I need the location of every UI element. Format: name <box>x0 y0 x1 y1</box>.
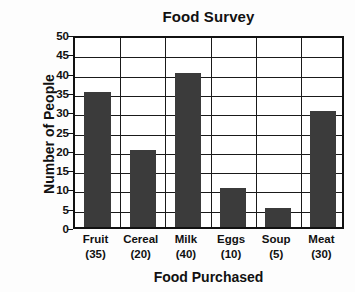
category-value: (20) <box>118 247 163 262</box>
chart-title: Food Survey <box>73 8 344 26</box>
category-name: Soup <box>254 232 299 247</box>
x-axis-tick-label-fruit: Fruit(35) <box>73 232 118 262</box>
category-value: (35) <box>73 247 118 262</box>
y-axis-tick-label: 20 <box>47 147 69 158</box>
y-axis-tick-label: 45 <box>47 50 69 61</box>
category-name: Eggs <box>209 232 254 247</box>
y-axis-tick-label: 35 <box>47 89 69 100</box>
bar-cell <box>165 38 210 227</box>
bar-eggs <box>220 188 246 227</box>
y-axis-tick-label: 50 <box>47 31 69 42</box>
bar-cell <box>75 38 120 227</box>
y-axis-tick-label: 30 <box>47 108 69 119</box>
y-axis-tick-label: 40 <box>47 70 69 81</box>
y-axis-tick-labels: 05101520253035404550 <box>45 36 69 229</box>
plot-area <box>73 36 344 229</box>
category-value: (10) <box>209 247 254 262</box>
bar-cell <box>256 38 301 227</box>
category-value: (30) <box>299 247 344 262</box>
bar-milk <box>175 73 201 227</box>
x-axis-tick-label-meat: Meat(30) <box>299 232 344 262</box>
bar-fruit <box>84 92 110 227</box>
y-axis-tick-mark <box>68 229 73 230</box>
x-axis-tick-label-cereal: Cereal(20) <box>118 232 163 262</box>
y-axis-tick-label: 5 <box>47 205 69 216</box>
bar-cereal <box>130 150 156 227</box>
x-axis-tick-label-eggs: Eggs(10) <box>209 232 254 262</box>
y-axis-tick-label: 15 <box>47 166 69 177</box>
bar-soup <box>265 208 291 227</box>
x-axis-tick-labels: Fruit(35)Cereal(20)Milk(40)Eggs(10)Soup(… <box>73 232 344 268</box>
x-axis-tick-label-milk: Milk(40) <box>163 232 208 262</box>
bar-cell <box>120 38 165 227</box>
category-name: Fruit <box>73 232 118 247</box>
bar-cell <box>211 38 256 227</box>
bar-chart-figure: Food Survey Number of People 05101520253… <box>0 0 355 292</box>
category-name: Milk <box>163 232 208 247</box>
bar-meat <box>310 111 336 227</box>
bar-cell <box>301 38 346 227</box>
y-axis-tick-label: 25 <box>47 128 69 139</box>
category-value: (40) <box>163 247 208 262</box>
category-name: Meat <box>299 232 344 247</box>
bars-layer <box>75 38 342 227</box>
y-axis-tick-label: 10 <box>47 185 69 196</box>
category-name: Cereal <box>118 232 163 247</box>
category-value: (5) <box>254 247 299 262</box>
y-axis-tick-label: 0 <box>47 224 69 235</box>
x-axis-title: Food Purchased <box>73 269 344 286</box>
x-axis-tick-label-soup: Soup(5) <box>254 232 299 262</box>
